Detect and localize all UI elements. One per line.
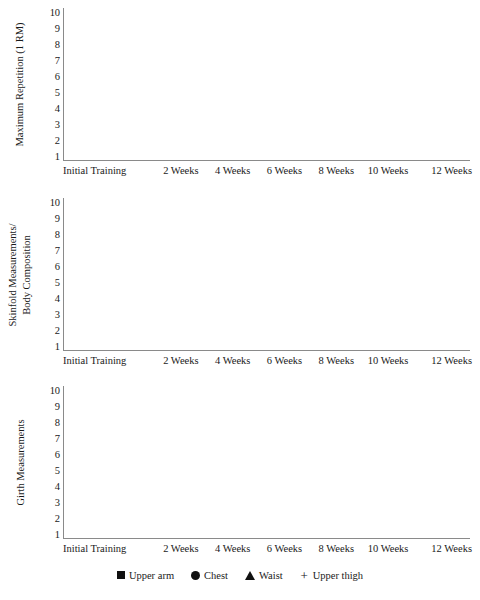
y-tick-label: 3 (40, 310, 60, 320)
y-axis-title-wrap-panel-2: Girth Measurements (0, 386, 40, 539)
x-tick-label: Initial Training (63, 353, 155, 369)
y-axis-ticks-panel-0: 10 9 8 7 6 5 4 3 2 1 (40, 8, 60, 161)
x-tick-label: 6 Weeks (259, 353, 311, 369)
plus-marker-icon: + (300, 570, 309, 581)
y-axis-title-line-1: Skinfold Measurements/ (6, 223, 20, 326)
x-tick-label: 6 Weeks (259, 541, 311, 557)
x-tick-label: 4 Weeks (207, 541, 259, 557)
x-tick-label: 2 Weeks (155, 163, 207, 179)
x-tick-label: 8 Weeks (310, 163, 362, 179)
square-marker-icon (117, 571, 125, 579)
x-tick-label: 6 Weeks (259, 163, 311, 179)
y-tick-label: 4 (40, 482, 60, 492)
plot-area-panel-0[interactable] (64, 8, 470, 160)
y-tick-label: 6 (40, 450, 60, 460)
y-axis-title-wrap-panel-1: Skinfold Measurements/ Body Composition (0, 198, 40, 351)
y-axis-ticks-panel-2: 10 9 8 7 6 5 4 3 2 1 (40, 386, 60, 539)
x-tick-label: 2 Weeks (155, 353, 207, 369)
y-tick-label: 9 (40, 24, 60, 34)
y-axis-title-wrap-panel-0: Maximum Repetition (1 RM) (0, 8, 40, 161)
y-tick-label: 9 (40, 402, 60, 412)
legend-item-label: Waist (259, 570, 283, 581)
y-tick-label: 9 (40, 214, 60, 224)
y-tick-label: 5 (40, 278, 60, 288)
y-tick-label: 10 (40, 8, 60, 18)
y-tick-label: 5 (40, 88, 60, 98)
y-tick-label: 2 (40, 326, 60, 336)
x-tick-label: 2 Weeks (155, 541, 207, 557)
x-tick-label: 10 Weeks (362, 163, 414, 179)
x-tick-label: 4 Weeks (207, 353, 259, 369)
y-axis-title-panel-1: Skinfold Measurements/ Body Composition (6, 223, 34, 326)
y-axis-ticks-panel-1: 10 9 8 7 6 5 4 3 2 1 (40, 198, 60, 351)
y-tick-label: 4 (40, 104, 60, 114)
x-axis-tick-labels-panel-0: Initial Training 2 Weeks 4 Weeks 6 Weeks… (63, 163, 472, 179)
x-tick-label: 8 Weeks (310, 353, 362, 369)
y-tick-label: 1 (40, 152, 60, 162)
circle-marker-icon (191, 571, 200, 580)
y-tick-label: 1 (40, 342, 60, 352)
legend-item-label: Upper arm (129, 570, 174, 581)
x-axis-tick-labels-panel-1: Initial Training 2 Weeks 4 Weeks 6 Weeks… (63, 353, 472, 369)
y-tick-label: 3 (40, 498, 60, 508)
x-tick-label: 8 Weeks (310, 541, 362, 557)
x-axis-line-panel-2 (63, 538, 470, 539)
y-tick-label: 6 (40, 72, 60, 82)
legend-item-label: Upper thigh (313, 570, 363, 581)
legend-item-upper-thigh[interactable]: + Upper thigh (300, 570, 363, 581)
y-tick-label: 8 (40, 230, 60, 240)
legend-item-chest[interactable]: Chest (191, 570, 228, 581)
y-tick-label: 10 (40, 386, 60, 396)
y-tick-label: 8 (40, 418, 60, 428)
y-tick-label: 8 (40, 40, 60, 50)
x-tick-label: 10 Weeks (362, 353, 414, 369)
y-tick-label: 3 (40, 120, 60, 130)
x-tick-label: Initial Training (63, 541, 155, 557)
plot-area-panel-1[interactable] (64, 198, 470, 350)
plot-frame-panel-2 (63, 386, 470, 539)
y-tick-label: 2 (40, 136, 60, 146)
y-axis-title-panel-2: Girth Measurements (14, 419, 27, 505)
y-tick-label: 4 (40, 294, 60, 304)
x-axis-tick-labels-panel-2: Initial Training 2 Weeks 4 Weeks 6 Weeks… (63, 541, 472, 557)
chart-panel-girth-measurements: Girth Measurements 10 9 8 7 6 5 4 3 2 1 (0, 386, 480, 539)
y-tick-label: 7 (40, 434, 60, 444)
chart-legend: Upper arm Chest Waist + Upper thigh (0, 565, 480, 585)
x-tick-label: 12 Weeks (414, 353, 472, 369)
y-axis-title-line-2: Body Composition (20, 223, 34, 326)
y-tick-label: 5 (40, 466, 60, 476)
legend-item-upper-arm[interactable]: Upper arm (117, 570, 174, 581)
plot-area-panel-2[interactable] (64, 386, 470, 538)
triangle-marker-icon (245, 571, 255, 580)
y-axis-title-panel-0: Maximum Repetition (1 RM) (14, 23, 27, 147)
y-tick-label: 1 (40, 530, 60, 540)
y-tick-label: 6 (40, 262, 60, 272)
y-tick-label: 2 (40, 514, 60, 524)
y-tick-label: 7 (40, 56, 60, 66)
x-tick-label: 12 Weeks (414, 541, 472, 557)
chart-panel-maximum-repetition: Maximum Repetition (1 RM) 10 9 8 7 6 5 4… (0, 8, 480, 161)
legend-item-waist[interactable]: Waist (245, 570, 283, 581)
plot-frame-panel-0 (63, 8, 470, 161)
x-tick-label: 12 Weeks (414, 163, 472, 179)
plot-frame-panel-1 (63, 198, 470, 351)
y-tick-label: 10 (40, 198, 60, 208)
x-tick-label: 10 Weeks (362, 541, 414, 557)
x-axis-line-panel-1 (63, 350, 470, 351)
x-axis-line-panel-0 (63, 160, 470, 161)
x-tick-label: Initial Training (63, 163, 155, 179)
chart-panel-skinfold-body-composition: Skinfold Measurements/ Body Composition … (0, 198, 480, 351)
legend-item-label: Chest (204, 570, 228, 581)
x-tick-label: 4 Weeks (207, 163, 259, 179)
y-tick-label: 7 (40, 246, 60, 256)
